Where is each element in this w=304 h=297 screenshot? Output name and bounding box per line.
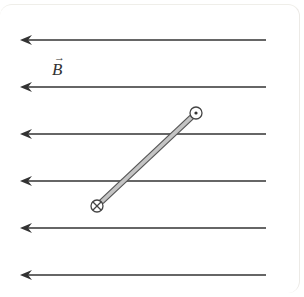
conducting-rod [101, 117, 191, 202]
magnetic-field-diagram [0, 0, 304, 297]
field-line-arrow [20, 129, 266, 139]
current-out-of-page-icon [190, 107, 202, 119]
field-label: → B [52, 60, 62, 80]
current-into-page-icon [91, 200, 103, 212]
vector-arrow: → [54, 51, 65, 63]
field-line-arrow [20, 176, 266, 186]
field-line-arrow [20, 223, 266, 233]
field-line-arrow [20, 82, 266, 92]
field-line-arrow [20, 270, 266, 280]
field-line-arrow [20, 35, 266, 45]
